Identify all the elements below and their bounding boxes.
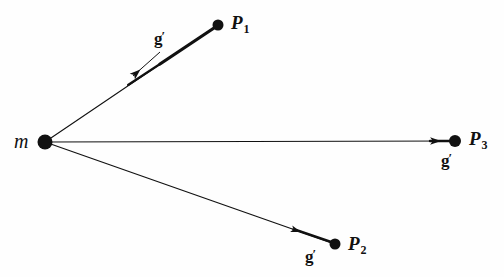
ray-to-p3 <box>45 141 455 142</box>
point-label-p2: P2 <box>348 234 366 253</box>
point-label-p2-subscript: 2 <box>361 243 367 257</box>
point-label-p1-subscript: 1 <box>244 22 250 36</box>
diagram-canvas <box>0 0 504 277</box>
point-label-p3-subscript: 3 <box>482 138 488 152</box>
ray-to-p1 <box>45 25 218 142</box>
field-vector-label-p2: g′ <box>305 248 317 265</box>
field-vector-label-p2-prime: ′ <box>313 246 317 261</box>
field-point-dot-p3 <box>449 135 461 147</box>
point-label-p2-letter: P <box>348 233 360 254</box>
gravitational-field-diagram: m P1 P2 P3 g′ g′ g′ <box>0 0 504 277</box>
field-vector-label-p3-prime: ′ <box>449 150 453 165</box>
field-vector-label-p1: g′ <box>154 30 166 47</box>
field-vector-label-p1-prime: ′ <box>162 28 166 43</box>
mass-point-dot <box>38 135 53 150</box>
mass-label: m <box>14 131 28 151</box>
point-label-p1: P1 <box>231 13 249 32</box>
ray-to-p2 <box>45 142 335 244</box>
point-label-p1-letter: P <box>231 12 243 33</box>
arrowhead-p2 <box>292 229 322 239</box>
field-vector-label-p3: g′ <box>441 152 453 169</box>
point-label-p3-letter: P <box>469 128 481 149</box>
field-point-dot-p1 <box>213 20 224 31</box>
field-point-dot-p2 <box>330 239 341 250</box>
point-label-p3: P3 <box>469 129 487 148</box>
